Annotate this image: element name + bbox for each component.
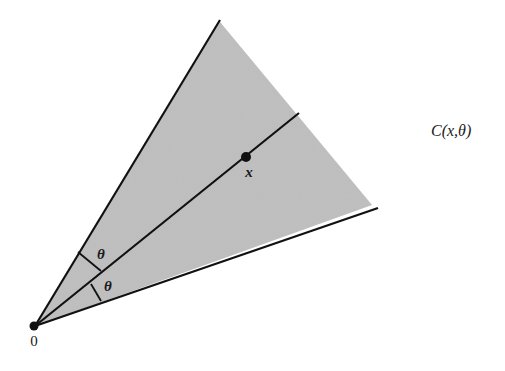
lower-angle-label: θ (104, 278, 112, 294)
cone-label: C(x,θ) (431, 122, 471, 140)
point-x (241, 152, 251, 162)
origin-point (30, 322, 39, 331)
cone-diagram: 0 x θ θ C(x,θ) (0, 0, 505, 371)
point-x-label: x (244, 164, 253, 180)
cone-region-texture (35, 22, 372, 326)
upper-angle-label: θ (97, 246, 105, 262)
origin-label: 0 (30, 333, 38, 349)
